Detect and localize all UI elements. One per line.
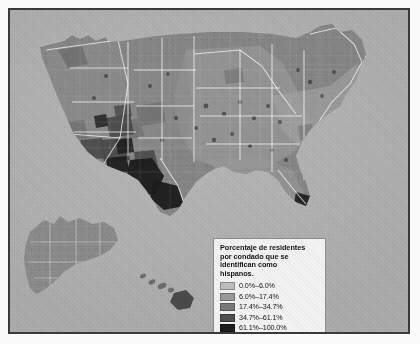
legend-swatch-bin-3 (220, 314, 235, 322)
hawaii-inset (139, 273, 194, 310)
legend-swatch-bin-1 (220, 293, 235, 301)
legend-swatch-bin-0 (220, 282, 235, 290)
map-frame: Porcentaje de residentes por condado que… (8, 8, 410, 334)
legend-label-bin-4: 61.1%–100.0% (239, 324, 287, 332)
legend-item: 17.4%–34.7% (220, 303, 320, 311)
map-page: Porcentaje de residentes por condado que… (0, 0, 420, 344)
legend-label-bin-1: 6.0%–17.4% (239, 293, 279, 301)
legend-item: 0.0%–6.0% (220, 282, 320, 290)
legend-swatch-bin-2 (220, 303, 235, 311)
legend-swatch-bin-4 (220, 324, 235, 332)
lower-48-states (10, 10, 408, 332)
legend-title: Porcentaje de residentes por condado que… (220, 244, 320, 278)
legend-label-bin-2: 17.4%–34.7% (239, 303, 283, 311)
map-legend: Porcentaje de residentes por condado que… (213, 238, 326, 334)
legend-label-bin-3: 34.7%–61.1% (239, 314, 283, 322)
choropleth-map[interactable] (10, 10, 408, 332)
legend-item: 61.1%–100.0% (220, 324, 320, 332)
alaska-inset (10, 205, 140, 310)
legend-item: 34.7%–61.1% (220, 314, 320, 322)
legend-label-bin-0: 0.0%–6.0% (239, 282, 275, 290)
legend-item: 6.0%–17.4% (220, 293, 320, 301)
